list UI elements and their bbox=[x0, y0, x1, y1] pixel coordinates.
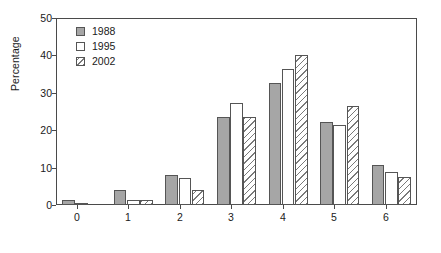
bar bbox=[179, 178, 192, 205]
bar bbox=[192, 190, 205, 205]
y-tick-label: 40 bbox=[26, 50, 52, 61]
legend-swatch-icon bbox=[76, 42, 85, 51]
x-tick-label: 5 bbox=[322, 212, 346, 223]
bar bbox=[333, 125, 346, 205]
legend-swatch-icon bbox=[76, 57, 85, 66]
x-tick-label: 6 bbox=[374, 212, 398, 223]
x-tick-label: 0 bbox=[65, 212, 89, 223]
legend-label: 1995 bbox=[92, 41, 115, 52]
bar bbox=[140, 200, 153, 205]
x-tick-label: 2 bbox=[168, 212, 192, 223]
y-tick-label: 20 bbox=[26, 125, 52, 136]
bar bbox=[165, 175, 178, 205]
y-tick-label: 30 bbox=[26, 88, 52, 99]
y-tick-label: 0 bbox=[26, 200, 52, 211]
legend-item: 1995 bbox=[76, 39, 115, 53]
bar bbox=[372, 165, 385, 205]
legend-label: 2002 bbox=[92, 56, 115, 67]
legend: 1988 1995 2002 bbox=[76, 24, 115, 69]
legend-item: 2002 bbox=[76, 54, 115, 68]
legend-label: 1988 bbox=[92, 26, 115, 37]
bar bbox=[320, 122, 333, 205]
bar bbox=[230, 103, 243, 205]
legend-swatch-icon bbox=[76, 27, 85, 36]
bar bbox=[398, 177, 411, 205]
bar bbox=[295, 55, 308, 205]
bar bbox=[62, 200, 75, 205]
bar bbox=[282, 69, 295, 206]
y-tick-label: 10 bbox=[26, 163, 52, 174]
bar bbox=[269, 83, 282, 205]
bar bbox=[347, 106, 360, 205]
y-axis-tick-labels: 50 40 30 20 10 0 bbox=[16, 0, 52, 253]
bar bbox=[385, 172, 398, 205]
y-tick-label: 50 bbox=[26, 13, 52, 24]
x-tick-label: 3 bbox=[219, 212, 243, 223]
bar bbox=[217, 117, 230, 205]
legend-item: 1988 bbox=[76, 24, 115, 38]
x-tick-label: 4 bbox=[271, 212, 295, 223]
bar bbox=[114, 190, 127, 205]
x-tick-label: 1 bbox=[116, 212, 140, 223]
bar bbox=[243, 117, 256, 205]
bar-chart: Percentage 50 40 30 20 10 0 0 1 2 3 4 5 … bbox=[0, 0, 441, 253]
